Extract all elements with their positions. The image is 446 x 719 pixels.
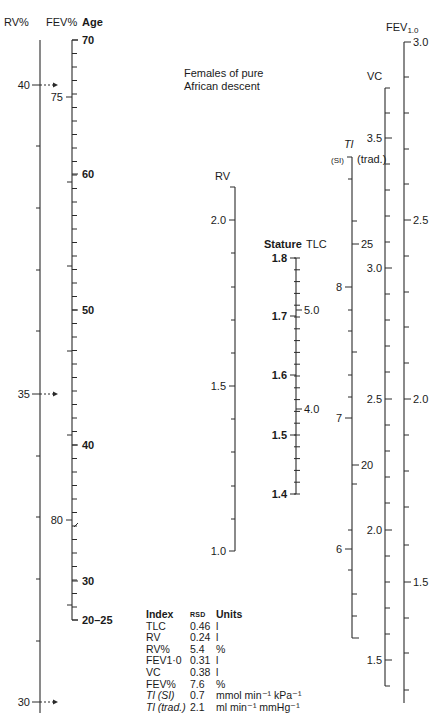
legend-index: VC	[146, 667, 190, 679]
legend-header-index: Index	[146, 609, 190, 621]
age-label: 40	[82, 439, 94, 451]
ti-si-label: 8	[336, 281, 342, 293]
header-vc: VC	[367, 70, 382, 82]
legend-header-rsd: RSD	[190, 609, 216, 621]
note-line-2: African descent	[184, 80, 263, 93]
rv-label: 2.0	[211, 214, 226, 226]
header-rv: RV	[215, 170, 230, 182]
legend-row: TLC 0.46 l	[146, 621, 302, 633]
legend-rsd: 0.38	[190, 667, 216, 679]
rv-pct-label: 40	[18, 79, 30, 91]
vc-label: 2.0	[367, 524, 382, 536]
rv-label: 1.5	[211, 380, 226, 392]
note-line-1: Females of pure	[184, 67, 263, 80]
header-fev10: FEV1.0	[386, 21, 419, 35]
header-tlc: TLC	[306, 238, 327, 250]
header-fev10-sub: 1.0	[407, 26, 418, 35]
header-rv-pct: RV%	[4, 16, 29, 28]
age-label: 30	[82, 575, 94, 587]
rv-label: 1.0	[211, 545, 226, 557]
legend-row: FEV1·0 0.31 l	[146, 655, 302, 667]
arrow-icon	[53, 700, 58, 705]
age-label: 20–25	[82, 614, 113, 626]
fev10-label: 2.5	[413, 214, 428, 226]
age-label: 50	[82, 304, 94, 316]
age-label: 70	[82, 34, 94, 46]
legend-row: VC 0.38 l	[146, 667, 302, 679]
header-ti-si: (SI)	[331, 156, 344, 165]
header-fev10-main: FEV	[386, 21, 407, 33]
header-fev-pct: FEV%	[46, 16, 77, 28]
rv-pct-label: 30	[18, 696, 30, 708]
header-stature: Stature	[264, 238, 302, 250]
legend-units: mmol min⁻¹ kPa⁻¹	[216, 690, 302, 702]
header-ti: Tl	[344, 138, 353, 150]
legend-units: l	[216, 632, 302, 644]
arrow-icon	[53, 392, 58, 397]
fev10-label: 1.5	[413, 576, 428, 588]
vc-label: 3.0	[367, 262, 382, 274]
vc-label: 1.5	[367, 654, 382, 666]
legend-units: l	[216, 667, 302, 679]
legend-rsd: 0.7	[190, 690, 216, 702]
fev-pct-label: 75	[51, 91, 63, 103]
legend-units: l	[216, 655, 302, 667]
ti-trad-label: 25	[361, 238, 373, 250]
stature-label: 1.8	[272, 252, 287, 264]
legend-header-units: Units	[216, 609, 302, 621]
arrow-icon	[53, 83, 58, 88]
fev10-label: 3.0	[413, 36, 428, 48]
legend-rsd: 2.1	[190, 702, 216, 714]
ti-trad-label: 20	[361, 459, 373, 471]
legend-units: ml min⁻¹ mmHg⁻¹	[216, 702, 302, 714]
ti-si-label: 7	[336, 412, 342, 424]
header-age: Age	[82, 16, 103, 28]
header-ti-trad: (trad.)	[357, 153, 386, 165]
tlc-label: 4.0	[304, 403, 319, 415]
ti-si-label: 6	[336, 543, 342, 555]
legend-index: Tl (trad.)	[146, 702, 190, 714]
legend-units: l	[216, 621, 302, 633]
stature-label: 1.7	[272, 310, 287, 322]
stature-label: 1.6	[272, 369, 287, 381]
fev10-label: 2.0	[413, 393, 428, 405]
rsd-legend: Index RSD Units TLC 0.46 l RV 0.24 l RV%…	[146, 609, 302, 713]
legend-index: Tl (SI)	[146, 690, 190, 702]
vc-label: 2.5	[367, 393, 382, 405]
stature-label: 1.5	[272, 429, 287, 441]
legend-row: Tl (SI) 0.7 mmol min⁻¹ kPa⁻¹	[146, 690, 302, 702]
tlc-label: 5.0	[304, 304, 319, 316]
fev-pct-label: 80	[51, 514, 63, 526]
vc-label: 3.5	[367, 132, 382, 144]
legend-units: %	[216, 644, 302, 656]
legend-header-row: Index RSD Units	[146, 609, 302, 621]
stature-label: 1.4	[272, 488, 288, 500]
rv-pct-label: 35	[18, 388, 30, 400]
legend-row: Tl (trad.) 2.1 ml min⁻¹ mmHg⁻¹	[146, 702, 302, 714]
population-note: Females of pure African descent	[184, 67, 263, 93]
age-label: 60	[82, 168, 94, 180]
